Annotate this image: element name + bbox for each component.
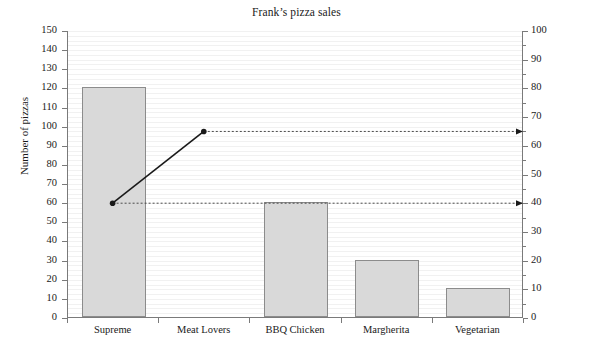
bar-supreme[interactable] xyxy=(82,87,146,317)
y-tick-label-right: 70 xyxy=(531,110,571,121)
x-tick xyxy=(249,318,250,323)
y-tick-right-minor xyxy=(523,246,526,247)
y-tick-right-minor xyxy=(523,45,526,46)
chart-title: Frank’s pizza sales xyxy=(0,6,593,18)
y-tick-left xyxy=(62,261,67,262)
y-tick-left xyxy=(62,280,67,281)
pareto-chart: Frank’s pizza sales 01020304050607080901… xyxy=(0,0,593,354)
y-tick-label-left: 40 xyxy=(17,234,57,245)
y-tick-left xyxy=(62,127,67,128)
plot-area xyxy=(67,31,523,318)
y-tick-left xyxy=(62,299,67,300)
y-tick-label-left: 60 xyxy=(17,196,57,207)
y-tick-label-right: 100 xyxy=(531,24,571,35)
bar-vegetarian[interactable] xyxy=(446,288,510,317)
x-tick xyxy=(67,318,68,323)
x-tick-label: Supreme xyxy=(67,324,158,335)
y-tick-label-left: 0 xyxy=(17,311,57,322)
y-tick-label-left: 130 xyxy=(17,62,57,73)
y-tick-right-major xyxy=(523,261,528,262)
x-tick xyxy=(158,318,159,323)
x-tick-label: Meat Lovers xyxy=(158,324,249,335)
bars-layer xyxy=(68,31,522,317)
y-tick-left xyxy=(62,146,67,147)
y-tick-right-minor xyxy=(523,103,526,104)
x-tick-label: BBQ Chicken xyxy=(249,324,340,335)
y-tick-left xyxy=(62,31,67,32)
y-tick-label-left: 30 xyxy=(17,254,57,265)
y-tick-left xyxy=(62,203,67,204)
y-tick-right-major xyxy=(523,60,528,61)
y-tick-right-minor xyxy=(523,131,526,132)
x-tick-label: Vegetarian xyxy=(432,324,523,335)
y-tick-label-left: 140 xyxy=(17,43,57,54)
y-tick-left xyxy=(62,50,67,51)
y-axis-left-title: Number of pizzas xyxy=(18,76,30,196)
y-tick-left xyxy=(62,241,67,242)
y-tick-label-right: 10 xyxy=(531,282,571,293)
y-tick-label-right: 60 xyxy=(531,139,571,150)
y-tick-label-right: 40 xyxy=(531,196,571,207)
bar-margherita[interactable] xyxy=(355,260,419,317)
y-tick-right-major xyxy=(523,289,528,290)
y-tick-label-right: 20 xyxy=(531,254,571,265)
x-tick-label: Margherita xyxy=(341,324,432,335)
y-tick-label-left: 150 xyxy=(17,24,57,35)
y-tick-label-left: 50 xyxy=(17,215,57,226)
y-tick-left xyxy=(62,184,67,185)
y-tick-right-major xyxy=(523,31,528,32)
y-tick-label-right: 80 xyxy=(531,81,571,92)
x-tick xyxy=(432,318,433,323)
y-tick-right-minor xyxy=(523,304,526,305)
y-tick-right-minor xyxy=(523,160,526,161)
y-tick-label-right: 50 xyxy=(531,168,571,179)
x-tick xyxy=(523,318,524,323)
y-tick-left xyxy=(62,165,67,166)
y-tick-left xyxy=(62,108,67,109)
y-tick-right-minor xyxy=(523,218,526,219)
y-tick-left xyxy=(62,222,67,223)
y-tick-left xyxy=(62,69,67,70)
y-tick-right-major xyxy=(523,175,528,176)
y-tick-label-right: 90 xyxy=(531,53,571,64)
y-tick-label-left: 10 xyxy=(17,292,57,303)
y-tick-right-minor xyxy=(523,275,526,276)
y-tick-right-minor xyxy=(523,189,526,190)
y-tick-right-major xyxy=(523,88,528,89)
y-tick-label-right: 0 xyxy=(531,311,571,322)
y-tick-right-major xyxy=(523,232,528,233)
y-tick-right-major xyxy=(523,203,528,204)
y-tick-right-major xyxy=(523,117,528,118)
y-tick-right-major xyxy=(523,146,528,147)
y-tick-right-minor xyxy=(523,74,526,75)
y-tick-label-right: 30 xyxy=(531,225,571,236)
x-tick xyxy=(341,318,342,323)
y-tick-label-left: 20 xyxy=(17,273,57,284)
bar-bbq-chicken[interactable] xyxy=(264,202,328,317)
y-tick-left xyxy=(62,88,67,89)
